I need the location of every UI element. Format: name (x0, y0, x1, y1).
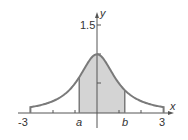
shaded-area (79, 54, 125, 113)
x-axis-label: x (170, 101, 176, 112)
x-tick-label-neg3: -3 (18, 117, 28, 128)
x-tick-label-3: 3 (159, 117, 165, 128)
y-axis-arrow-icon (95, 12, 99, 18)
x-marker-b: b (122, 117, 128, 128)
y-tick-label-1-5: 1.5 (80, 20, 95, 31)
y-axis-label: y (100, 8, 106, 19)
x-marker-a: a (76, 117, 82, 128)
